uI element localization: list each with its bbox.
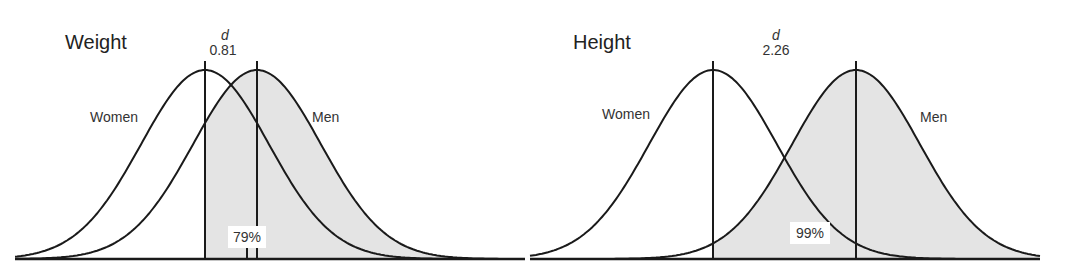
percent-label: 79%	[233, 229, 261, 245]
men-shaded-area	[713, 70, 1040, 259]
women-label: Women	[602, 106, 650, 122]
chart-title: Weight	[65, 31, 127, 53]
effect-size-symbol: d	[772, 27, 781, 43]
effect-size-symbol: d	[221, 27, 230, 43]
effect-size-value: 2.26	[762, 42, 789, 58]
men-label: Men	[312, 109, 339, 125]
chart-canvas: Weight d 0.81 Women Men 79% Height d 2.2…	[0, 0, 1073, 274]
percent-label: 99%	[796, 225, 824, 241]
height-chart: Height d 2.26 Women Men 99%	[530, 27, 1040, 259]
weight-chart: Weight d 0.81 Women Men 79%	[15, 27, 525, 259]
women-label: Women	[90, 109, 138, 125]
chart-title: Height	[573, 31, 631, 53]
men-label: Men	[920, 109, 947, 125]
effect-size-value: 0.81	[209, 42, 236, 58]
